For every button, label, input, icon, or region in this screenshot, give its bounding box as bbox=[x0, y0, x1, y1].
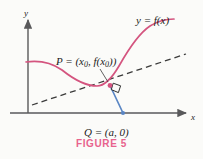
x-axis-label: x bbox=[191, 113, 195, 122]
point-q-suffix: , 0) bbox=[114, 126, 129, 138]
curve-label: y = f(x) bbox=[136, 15, 169, 26]
point-q-marker bbox=[121, 111, 125, 115]
point-q-prefix: Q = ( bbox=[84, 126, 109, 138]
figure-caption: FIGURE 5 bbox=[0, 139, 203, 149]
point-p-mid: , f( bbox=[88, 55, 100, 67]
point-p-suffix: )) bbox=[109, 55, 116, 67]
function-curve bbox=[26, 19, 174, 86]
y-axis-label: y bbox=[24, 9, 28, 18]
point-q-label: Q = (a, 0) bbox=[84, 127, 129, 138]
p-label-leader-line bbox=[100, 69, 108, 82]
point-p-marker bbox=[108, 83, 113, 88]
point-p-prefix: P = ( bbox=[56, 55, 79, 67]
figure-container: y x y = f(x) P = (x0, f(x0)) Q = (a, 0) … bbox=[0, 0, 203, 159]
point-p-label: P = (x0, f(x0)) bbox=[56, 56, 116, 69]
